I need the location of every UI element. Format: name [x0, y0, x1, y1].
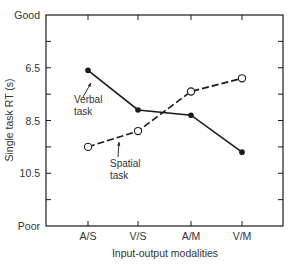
- data-point-filled: [85, 68, 91, 74]
- y-tick-label: 6.5: [25, 62, 40, 74]
- plot-frame: [46, 15, 283, 226]
- data-point-filled: [239, 149, 245, 155]
- arrowhead-icon: [117, 142, 120, 146]
- x-tick-label: V/M: [233, 230, 252, 242]
- data-point-filled: [135, 107, 141, 113]
- y-axis-label: Single task RT (s): [3, 78, 15, 161]
- x-tick-label: A/S: [80, 230, 97, 242]
- data-point-open: [84, 143, 91, 150]
- y-top-label: Good: [14, 9, 40, 21]
- annotation-text: Verbal: [74, 94, 102, 105]
- series-layer: VerbaltaskSpatialtask: [74, 68, 246, 181]
- chart-svg: 6.58.510.5A/SV/SA/MV/M VerbaltaskSpatial…: [0, 0, 296, 268]
- data-point-open: [134, 127, 141, 134]
- labels: Input-output modalities Single task RT (…: [3, 9, 218, 259]
- y-bottom-label: Poor: [18, 220, 41, 232]
- annotation-spatial-task: Spatialtask: [110, 142, 141, 181]
- annotation-verbal-task: Verbaltask: [74, 83, 102, 117]
- x-tick-label: A/M: [182, 230, 201, 242]
- annotation-text: Spatial: [110, 158, 141, 169]
- y-tick-label: 10.5: [20, 167, 41, 179]
- axes: 6.58.510.5A/SV/SA/MV/M: [20, 15, 283, 242]
- data-point-filled: [188, 112, 194, 118]
- x-tick-label: V/S: [130, 230, 147, 242]
- data-point-open: [187, 88, 194, 95]
- annotation-text: task: [74, 106, 93, 117]
- data-point-open: [238, 75, 245, 82]
- y-tick-label: 8.5: [25, 115, 40, 127]
- chart-container: 6.58.510.5A/SV/SA/MV/M VerbaltaskSpatial…: [0, 0, 296, 268]
- x-axis-label: Input-output modalities: [112, 247, 218, 259]
- annotation-text: task: [110, 170, 129, 181]
